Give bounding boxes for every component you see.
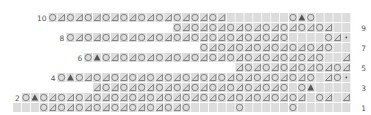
chart-cell [342, 13, 350, 22]
chart-cell [298, 33, 306, 42]
chart-cell [307, 93, 315, 102]
chart-cell [333, 43, 341, 52]
chart-cell [236, 13, 244, 22]
chart-cell [333, 53, 341, 62]
chart-cell [253, 13, 261, 22]
chart-cell [227, 13, 235, 22]
purl-dot-icon [345, 37, 347, 39]
chart-cell [316, 33, 324, 42]
chart-cell [298, 103, 306, 112]
chart-cell [325, 13, 333, 22]
chart-cell [342, 43, 350, 52]
row-number-label: 10 [37, 14, 47, 23]
chart-grid: 10987654321 [0, 0, 371, 115]
chart-cell [280, 13, 288, 22]
chart-cell [262, 13, 270, 22]
chart-cell [325, 53, 333, 62]
chart-cell [13, 103, 21, 112]
chart-cell [218, 103, 226, 112]
row-number-label: 9 [361, 24, 366, 33]
chart-cell [244, 13, 252, 22]
row-number-label: 1 [361, 104, 366, 113]
row-number-label: 6 [77, 54, 82, 63]
chart-cell [333, 93, 341, 102]
chart-cell [325, 83, 333, 92]
chart-cell [227, 103, 235, 112]
chart-cell [289, 83, 297, 92]
chart-cell [307, 103, 315, 112]
chart-cell [191, 103, 199, 112]
knitting-chart: 10987654321 [0, 0, 371, 115]
row-number-label: 7 [361, 44, 366, 53]
chart-cell [31, 103, 39, 112]
chart-cell [244, 103, 252, 112]
row-number-label: 2 [15, 94, 20, 103]
chart-cell [253, 103, 261, 112]
chart-cell [316, 73, 324, 82]
chart-cell [307, 33, 315, 42]
chart-cell [280, 103, 288, 112]
chart-cell [333, 103, 341, 112]
chart-cell [316, 13, 324, 22]
chart-cell [333, 23, 341, 32]
chart-cell [342, 23, 350, 32]
chart-cell [289, 33, 297, 42]
chart-cell [200, 103, 208, 112]
purl-dot-icon [345, 77, 347, 79]
chart-cell [271, 103, 279, 112]
chart-cell [333, 83, 341, 92]
chart-cell [262, 103, 270, 112]
row-number-label: 4 [51, 74, 56, 83]
chart-cell [316, 103, 324, 112]
chart-cell [342, 83, 350, 92]
chart-cell [209, 103, 217, 112]
chart-cell [22, 103, 30, 112]
row-number-label: 8 [60, 34, 65, 43]
chart-cell [342, 103, 350, 112]
row-number-label: 5 [361, 64, 366, 73]
row-number-label: 3 [361, 84, 366, 93]
chart-cell [316, 83, 324, 92]
chart-cell [271, 13, 279, 22]
chart-cell [333, 13, 341, 22]
chart-cell [325, 103, 333, 112]
